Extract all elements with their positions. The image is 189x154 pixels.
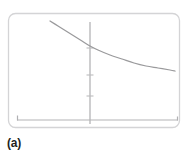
figure-caption: (a) [7,134,67,152]
figure-panel [0,0,189,131]
plot-frame [9,14,180,128]
plot-canvas [0,0,189,131]
figure-screenshot: (a) [0,0,189,154]
